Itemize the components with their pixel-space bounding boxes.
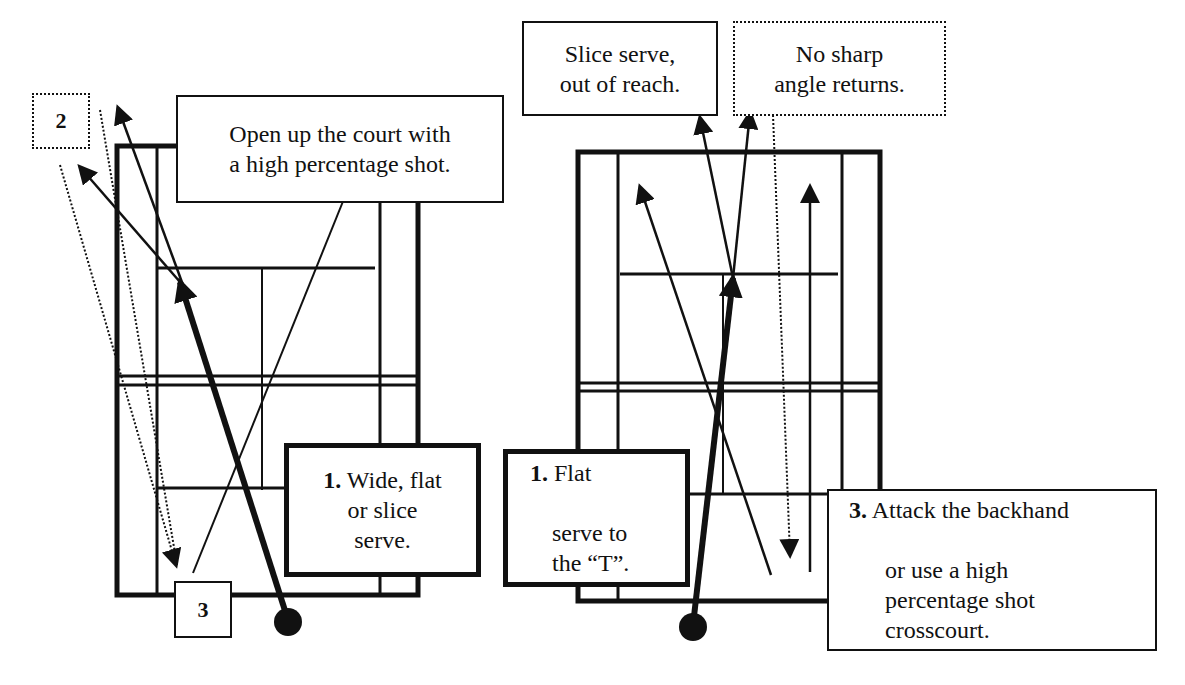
serve-t-callout: 1. Flat serve to the “T”. [503,449,690,587]
serve-wide-number: 1. [323,467,341,493]
left-server-ball [274,608,302,636]
step-3-text: 3 [198,595,209,625]
slice-serve-callout: Slice serve, out of reach. [522,21,718,116]
attack-backhand-rest: or use a high percentage shot crosscourt… [849,555,1069,645]
open-court-callout: Open up the court with a high percentage… [176,95,504,203]
serve-t-text: 1. Flat serve to the “T”. [530,428,629,608]
open-court-text: Open up the court with a high percentage… [229,119,450,179]
no-sharp-angle-text: No sharp angle returns. [774,39,905,99]
step-2-text: 2 [56,106,67,136]
attack-backhand-line1: Attack the backhand [867,497,1069,523]
serve-t-rest: serve to the “T”. [530,518,629,578]
serve-wide-body: Wide, flat or slice serve. [341,467,442,553]
attack-backhand-callout: 3. Attack the backhand or use a high per… [827,489,1157,651]
attack-backhand-number: 3. [849,497,867,523]
no-sharp-angle-callout: No sharp angle returns. [733,21,946,116]
serve-wide-text: 1. Wide, flat or slice serve. [323,465,442,555]
right-server-ball [679,613,707,641]
serve-wide-callout: 1. Wide, flat or slice serve. [284,443,481,577]
attack-backhand-text: 3. Attack the backhand or use a high per… [849,465,1069,675]
serve-t-line1: Flat [548,460,591,486]
step-2-label: 2 [32,93,90,149]
slice-serve-text: Slice serve, out of reach. [560,39,681,99]
step-3-label: 3 [174,581,232,638]
serve-t-number: 1. [530,460,548,486]
